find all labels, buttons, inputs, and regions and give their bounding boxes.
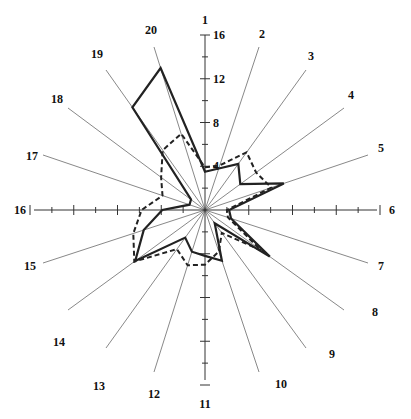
spoke-15 bbox=[43, 210, 205, 263]
spoke-label-8: 8 bbox=[372, 305, 378, 319]
spoke-label-2: 2 bbox=[259, 27, 265, 41]
spoke-12 bbox=[154, 210, 205, 372]
spoke-label-11: 11 bbox=[199, 397, 210, 411]
spoke-label-6: 6 bbox=[389, 203, 395, 217]
spoke-4 bbox=[205, 108, 344, 210]
radial-tick-label: 12 bbox=[213, 72, 225, 86]
spoke-label-4: 4 bbox=[348, 88, 354, 102]
spoke-label-7: 7 bbox=[378, 259, 384, 273]
spoke-9 bbox=[205, 210, 306, 348]
spoke-5 bbox=[205, 155, 368, 210]
spoke-label-3: 3 bbox=[308, 49, 314, 63]
spoke-label-20: 20 bbox=[145, 23, 157, 37]
spoke-label-12: 12 bbox=[148, 387, 160, 401]
axes bbox=[30, 35, 380, 385]
spoke-label-5: 5 bbox=[378, 141, 384, 155]
spoke-label-14: 14 bbox=[53, 335, 65, 349]
spoke-label-19: 19 bbox=[91, 47, 103, 61]
spoke-label-13: 13 bbox=[93, 379, 105, 393]
spoke-label-15: 15 bbox=[24, 259, 36, 273]
spoke-13 bbox=[106, 210, 205, 348]
spoke-3 bbox=[205, 70, 306, 210]
series bbox=[132, 68, 283, 265]
radial-tick-label: 8 bbox=[213, 116, 219, 130]
spoke-19 bbox=[106, 70, 205, 210]
radial-tick-labels: 481216 bbox=[213, 28, 225, 173]
spoke-label-9: 9 bbox=[329, 347, 335, 361]
spoke-label-1: 1 bbox=[202, 13, 208, 27]
spoke-label-18: 18 bbox=[51, 92, 63, 106]
spoke-label-16: 16 bbox=[14, 203, 26, 217]
spoke-8 bbox=[205, 210, 344, 310]
series-solid bbox=[132, 68, 283, 261]
radar-chart: 1234567891011121314151617181920 481216 bbox=[0, 0, 411, 419]
radial-tick-label: 16 bbox=[213, 28, 225, 42]
spoke-label-10: 10 bbox=[275, 377, 287, 391]
spoke-label-17: 17 bbox=[26, 149, 38, 163]
